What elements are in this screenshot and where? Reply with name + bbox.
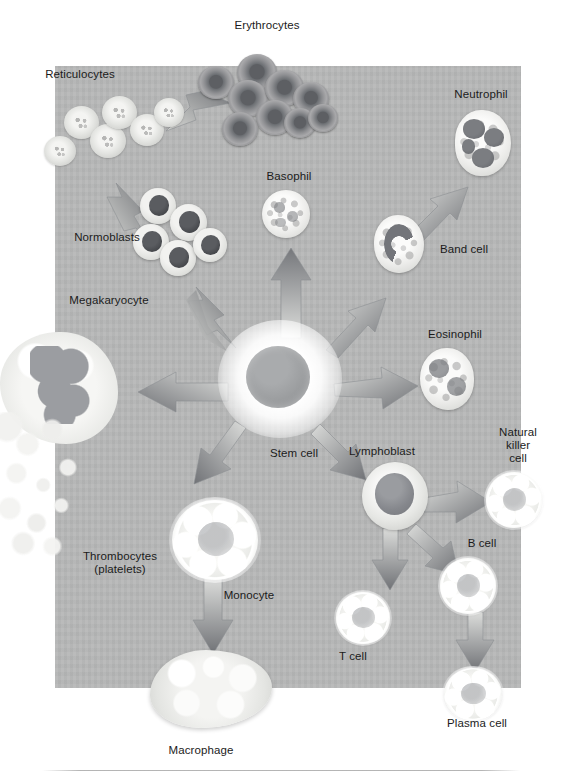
cell-thrombocytes xyxy=(0,412,106,558)
cell-eosinophil xyxy=(420,348,474,410)
cell-basophil xyxy=(262,190,310,238)
label-normoblasts: Normoblasts xyxy=(64,231,150,244)
cell-neutrophil xyxy=(455,110,511,176)
eosinophil-nucleus-lobes xyxy=(420,348,474,410)
label-stem-cell: Stem cell xyxy=(256,447,332,460)
label-basophil: Basophil xyxy=(254,170,324,183)
label-plasma-cell: Plasma cell xyxy=(434,717,520,730)
cell-stem-cell xyxy=(218,320,342,438)
label-thrombocytes: Thrombocytes (platelets) xyxy=(68,550,172,576)
label-eosinophil: Eosinophil xyxy=(414,328,496,341)
label-lymphoblast: Lymphoblast xyxy=(336,445,428,458)
cell-erythrocytes xyxy=(195,52,345,147)
label-t-cell: T cell xyxy=(322,650,384,663)
cell-reticulocytes xyxy=(42,88,187,178)
label-band-cell: Band cell xyxy=(428,243,500,256)
band-cell-nucleus xyxy=(384,224,414,263)
cell-megakaryocyte xyxy=(0,330,144,560)
arrow-lymphoblast-to-tcell xyxy=(372,528,408,590)
arrow-stemcell-to-megakaryocyte xyxy=(138,372,228,412)
label-b-cell: B cell xyxy=(452,537,512,550)
neutrophil-nucleus-lobes xyxy=(455,110,511,176)
label-monocyte: Monocyte xyxy=(211,589,287,602)
label-natural-killer-cell: Natural killer cell xyxy=(488,426,548,465)
cell-b-cell xyxy=(440,558,496,614)
basophil-granules xyxy=(262,190,310,238)
arrow-lymphoblast-to-nkcell xyxy=(424,481,491,523)
label-macrophage: Macrophage xyxy=(151,744,251,757)
hematopoiesis-figure: Erythrocytes Reticulocytes Normoblasts M… xyxy=(0,0,561,782)
cell-band-cell xyxy=(374,215,424,273)
label-erythrocytes: Erythrocytes xyxy=(207,19,327,32)
cell-natural-killer-cell xyxy=(486,472,542,528)
label-megakaryocyte: Megakaryocyte xyxy=(58,294,160,307)
label-neutrophil: Neutrophil xyxy=(438,88,524,101)
cell-lymphoblast xyxy=(362,462,428,530)
cell-t-cell xyxy=(336,592,390,644)
cell-monocyte xyxy=(172,500,258,580)
cell-plasma-cell xyxy=(444,668,502,720)
footer-divider xyxy=(42,770,520,771)
label-reticulocytes: Reticulocytes xyxy=(30,68,130,81)
arrow-stemcell-to-eosinophil xyxy=(334,367,418,409)
arrow-bcell-to-plasmacell xyxy=(456,612,494,672)
